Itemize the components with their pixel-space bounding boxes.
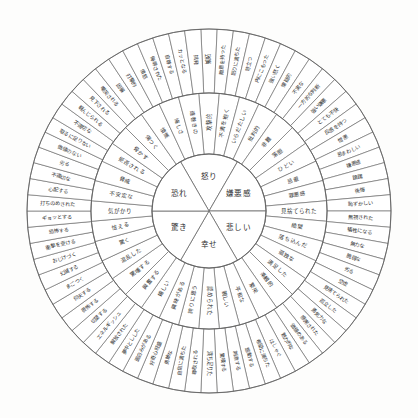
emotion-label: 見捨てられた — [281, 207, 317, 215]
emotion-label: 嫉妬 — [204, 54, 212, 64]
emotion-label: 気がかり — [108, 207, 132, 215]
emotion-label: 攻撃的 — [205, 113, 213, 131]
core-emotion-label: 恐れ — [171, 189, 188, 198]
core-emotion-label: 怒り — [201, 171, 218, 181]
core-emotion-label: 嫌悪感 — [226, 188, 251, 198]
emotion-wheel-diagram: 嫉妬敵意を持った怒りに満ちた苛立つ内にこもった強い怒く懐疑的不実な一方的な判断強… — [0, 0, 418, 418]
core-emotion-label: 幸せ — [201, 240, 218, 249]
emotion-label: 認められた — [206, 286, 214, 316]
core-emotion-label: 驚き — [171, 222, 188, 232]
emotion-wheel-svg: 嫉妬敵意を持った怒りに満ちた苛立つ内にこもった強い怒く懐疑的不実な一方的な判断強… — [0, 0, 418, 418]
core-emotion-label: 悲しい — [226, 222, 251, 232]
emotion-label: 満ち足りた — [206, 351, 213, 376]
